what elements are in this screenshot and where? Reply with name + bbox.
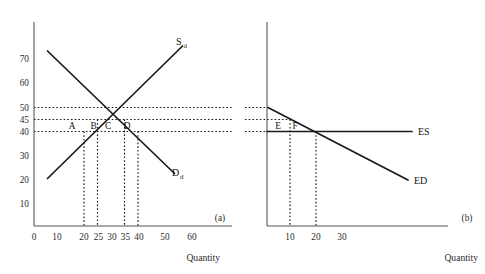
panel-a-y-tick-labels: 70 60 50 45 40 30 20 10 — [20, 54, 30, 209]
panel-a: 70 60 50 45 40 30 20 10 0 10 20 25 30 35… — [0, 0, 232, 263]
panel-a-x-tick-labels: 0 10 20 25 30 35 40 50 60 — [32, 232, 197, 242]
y-tick-30: 30 — [20, 151, 30, 161]
point-label-a: A — [69, 121, 76, 131]
figure-svg: 70 60 50 45 40 30 20 10 0 10 20 25 30 35… — [0, 0, 485, 274]
x-tick-30: 30 — [107, 232, 117, 242]
x-tick-0: 0 — [32, 232, 37, 242]
point-label-c: C — [105, 121, 111, 131]
demand-curve-label-subscript: d — [180, 173, 184, 180]
supply-curve-label-subscript: d — [184, 42, 188, 49]
supply-curve-sd — [48, 46, 183, 179]
point-label-e: E — [275, 121, 281, 131]
excess-demand-curve-ed — [268, 108, 408, 181]
panel-a-horizontal-reference-lines — [34, 108, 232, 132]
panel-b-x-axis-title: Quantity — [444, 252, 478, 263]
x-tick-10: 10 — [52, 232, 62, 242]
x-tick-20: 20 — [79, 232, 89, 242]
y-tick-40: 40 — [20, 127, 30, 137]
y-tick-10: 10 — [20, 199, 30, 209]
point-label-f: F — [292, 121, 297, 131]
point-label-b: B — [90, 121, 96, 131]
panel-a-label: (a) — [215, 213, 225, 224]
x-tick-60: 60 — [187, 232, 197, 242]
panel-b-label: (b) — [462, 213, 473, 224]
economics-figure: 70 60 50 45 40 30 20 10 0 10 20 25 30 35… — [0, 0, 485, 274]
point-label-d: D — [124, 121, 131, 131]
x-tick-b-20: 20 — [311, 232, 321, 242]
panel-a-x-axis-title: Quantity — [186, 252, 220, 263]
y-tick-60: 60 — [20, 78, 30, 88]
demand-curve-label-text: D — [172, 167, 179, 178]
x-tick-b-30: 30 — [337, 232, 347, 242]
excess-supply-curve-label: ES — [418, 126, 430, 137]
demand-curve-label: D d — [172, 167, 184, 180]
panel-b-vertical-reference-lines — [290, 120, 316, 227]
y-tick-50: 50 — [20, 103, 30, 113]
demand-curve-dd — [48, 51, 175, 174]
supply-curve-label-text: S — [176, 36, 182, 47]
y-tick-20: 20 — [20, 175, 30, 185]
x-tick-50: 50 — [160, 232, 170, 242]
x-tick-35: 35 — [121, 232, 131, 242]
panel-b-point-labels: E F — [275, 121, 297, 131]
y-tick-70: 70 — [20, 54, 30, 64]
panel-b-x-tick-labels: 10 20 30 — [285, 232, 347, 242]
y-tick-45: 45 — [20, 115, 30, 125]
x-tick-b-10: 10 — [285, 232, 295, 242]
excess-demand-curve-label: ED — [414, 175, 427, 186]
x-tick-25: 25 — [94, 232, 104, 242]
x-tick-40: 40 — [134, 232, 144, 242]
